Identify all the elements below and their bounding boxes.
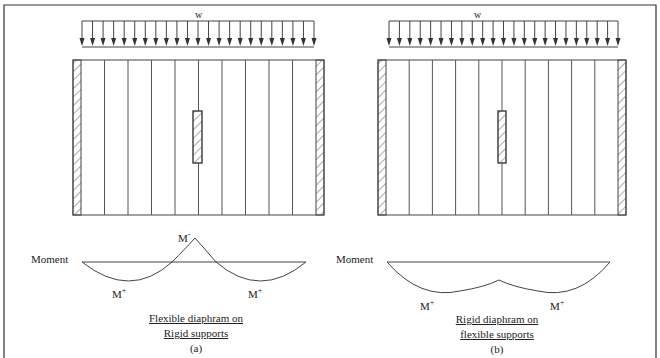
panel-b-load: [387, 21, 621, 47]
caption-line1: Flexible diaphram on: [116, 311, 276, 326]
right-wall-support: [618, 60, 626, 215]
panel-a-moment-label: Moment: [31, 253, 68, 266]
panel-b-diaphragm: [378, 60, 626, 215]
panel-a-positive-moment-right: M+: [248, 284, 262, 301]
center-pier: [498, 111, 506, 163]
left-wall-support: [378, 60, 386, 215]
caption-line2: Rigid supports: [116, 326, 276, 341]
panel-b-moment-label: Moment: [336, 253, 373, 266]
panel-a-load: [80, 21, 317, 47]
caption-line2: flexible supports: [417, 327, 577, 342]
panel-label: (a): [116, 341, 276, 356]
panel-b-caption: Rigid diaphram on flexible supports (b): [417, 312, 577, 357]
panel-a-positive-moment-left: M+: [112, 284, 126, 301]
panel-a-moment-diagram: [82, 238, 306, 281]
right-wall-support: [316, 60, 324, 215]
panel-a-load-label: w: [195, 8, 202, 21]
panel-b-positive-moment-left: M+: [420, 296, 434, 313]
panel-a-diaphragm: [73, 60, 324, 215]
panel-a-negative-moment: M-: [178, 228, 190, 245]
panel-b-load-label: w: [474, 8, 481, 21]
left-wall-support: [73, 60, 81, 215]
panel-b-positive-moment-right: M+: [550, 296, 564, 313]
figure: w Moment M- M+ M+ Flexible diaphram on R…: [0, 0, 660, 358]
panel-b-moment-diagram: [387, 262, 610, 293]
panel-a-caption: Flexible diaphram on Rigid supports (a): [116, 311, 276, 356]
panel-label: (b): [417, 342, 577, 357]
caption-line1: Rigid diaphram on: [417, 312, 577, 327]
